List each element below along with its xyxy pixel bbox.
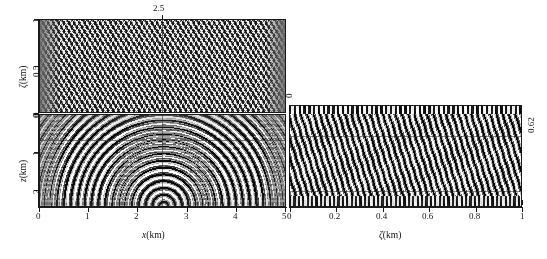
right-panel-right-label: 0.62 (527, 117, 536, 133)
lower-panel-x-tick-label-3: 3 (184, 212, 189, 221)
figure-canvas: 2.5 1 0.5 0 ζ(km) 0 0 1 2 z(km) 0 1 2 3 (0, 0, 547, 259)
upper-panel-y-axis-symbol: ζ (18, 84, 28, 88)
wavefield-source-axis (162, 114, 163, 207)
right-panel-x-tick-label-02: 0.2 (329, 212, 340, 221)
wavefield-center-seam (162, 19, 163, 113)
right-panel-right-tick (522, 200, 523, 205)
lower-panel-y-axis-symbol: z (18, 178, 28, 182)
upper-panel-y-tick-label-1: 1 (32, 19, 41, 24)
upper-panel-top-tick-label: 2.5 (153, 4, 164, 13)
right-panel-x-axis-unit: (km) (383, 230, 401, 240)
checker-upper-seam (289, 136, 522, 137)
upper-panel-y-axis-unit: (km) (18, 66, 28, 84)
lower-panel-x-tick-label-0: 0 (36, 212, 41, 221)
lower-panel-y-tick-label-2: 2 (32, 190, 41, 195)
right-panel-x-tick-label-08: 0.8 (469, 212, 480, 221)
upper-panel-top-tick (162, 15, 163, 19)
right-panel-x-axis-title: ζ(km) (379, 230, 401, 240)
lower-panel-x-tick-label-5: 5 (282, 212, 287, 221)
panel-z-x-wavefield (39, 114, 286, 207)
lower-panel-x-tick-label-2: 2 (134, 212, 139, 221)
lower-panel-x-tick-label-4: 4 (233, 212, 238, 221)
lower-panel-y-tick-label-0: 0 (32, 114, 41, 119)
right-panel-x-axis (289, 207, 523, 208)
upper-panel-y-axis-title: ζ(km) (18, 66, 28, 88)
panel-zeta-x-wavefield (39, 19, 286, 113)
lower-panel-y-axis-unit: (km) (18, 160, 28, 178)
right-panel-x-tick-label-0: 0 (287, 212, 292, 221)
panel-zeta-zeta-wavefield (289, 105, 522, 207)
checker-top-band (289, 105, 522, 114)
lower-panel-x-axis (38, 207, 287, 208)
upper-panel-y-tick-label-05: 0.5 (32, 66, 41, 77)
lower-panel-y-axis-title: z(km) (18, 160, 28, 182)
right-panel-x-tick-label-06: 0.6 (422, 212, 433, 221)
upper-panel-right-label: 0 (285, 94, 294, 99)
right-panel-x-tick-label-04: 0.4 (376, 212, 387, 221)
right-panel-x-tick-label-1: 1 (520, 212, 525, 221)
lower-panel-y-tick-label-1: 1 (32, 152, 41, 157)
lower-panel-x-axis-title: x(km) (142, 230, 165, 240)
checker-bottom-band (289, 196, 522, 207)
lower-panel-x-axis-unit: (km) (146, 230, 164, 240)
checker-lower-seam (289, 191, 522, 192)
lower-panel-x-tick-label-1: 1 (85, 212, 90, 221)
